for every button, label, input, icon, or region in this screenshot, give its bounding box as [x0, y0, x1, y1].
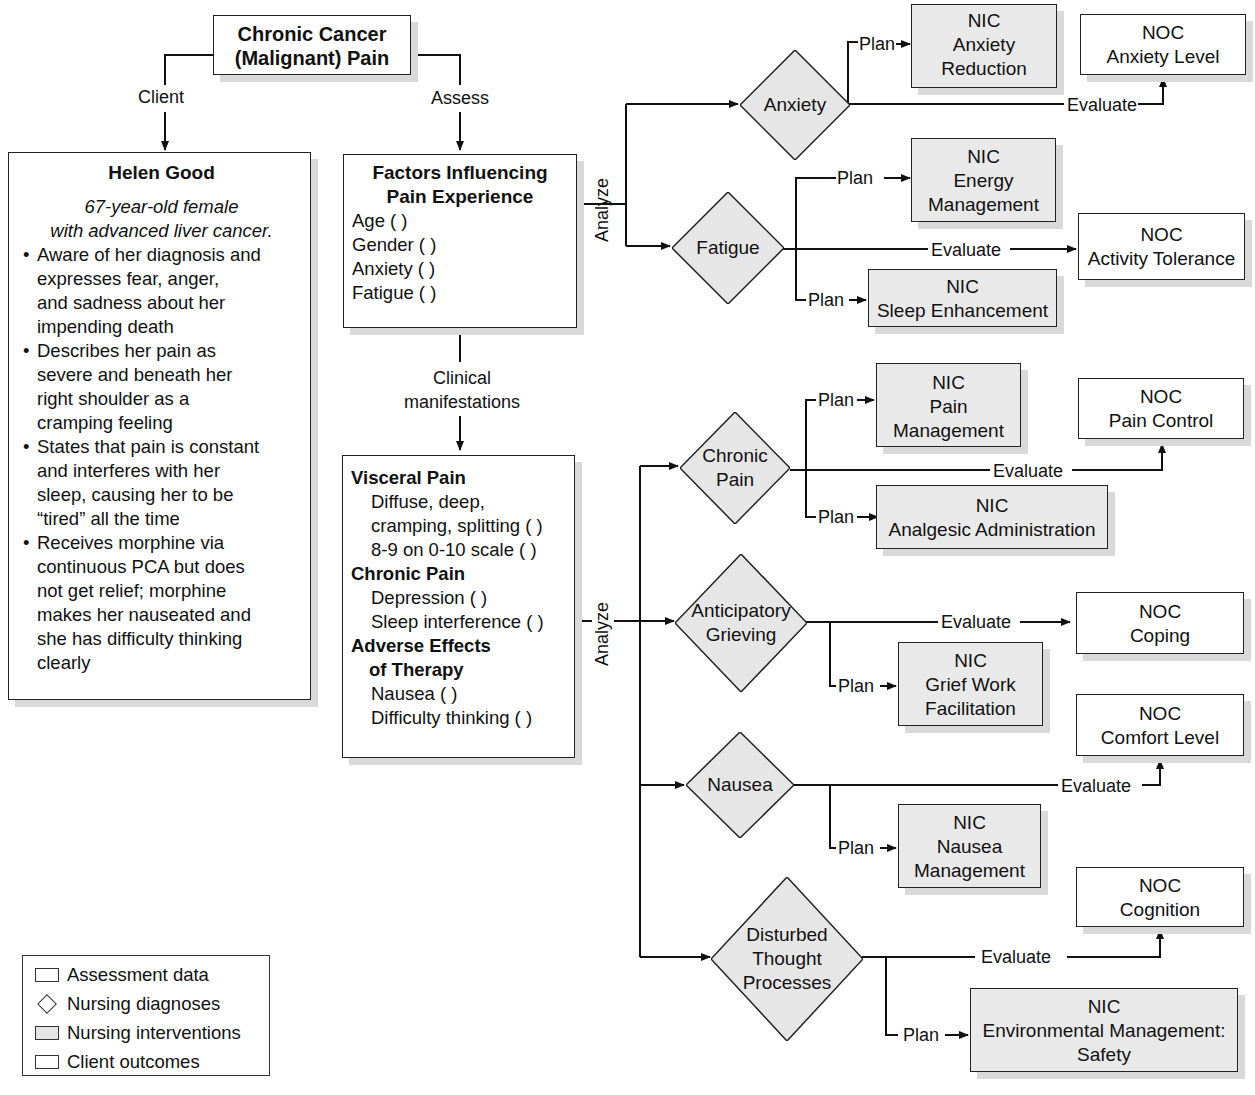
clinical-manifestations-label: Clinical manifestations: [395, 368, 529, 412]
legend: Assessment data Nursing diagnoses Nursin…: [22, 955, 270, 1076]
nic-anxiety-reduction: NICAnxietyReduction: [911, 4, 1057, 88]
noc-activity-tolerance: NOCActivity Tolerance: [1078, 213, 1245, 280]
nic-analgesic-administration: NICAnalgesic Administration: [876, 485, 1108, 549]
assess-edge-label: Assess: [430, 88, 490, 108]
manifestation-item: Depression ( ): [351, 586, 568, 610]
diagnosis-disturbed-thought: DisturbedThoughtProcesses: [711, 877, 863, 1041]
evaluate-label: Evaluate: [1066, 95, 1138, 115]
evaluate-label: Evaluate: [992, 461, 1064, 481]
legend-diagnoses: Nursing diagnoses: [35, 989, 269, 1018]
client-bullet: States that pain is constantand interfer…: [23, 435, 300, 531]
nic-pain-management: NICPainManagement: [876, 363, 1021, 447]
nic-nausea-management: NICNauseaManagement: [898, 804, 1041, 888]
evaluate-label: Evaluate: [930, 240, 1002, 260]
manifestation-item: Diffuse, deep,: [351, 490, 568, 514]
rectangle-white-icon: [35, 1055, 59, 1069]
legend-outcomes: Client outcomes: [35, 1047, 269, 1076]
diagnosis-fatigue: Fatigue: [672, 192, 784, 304]
adverse-heading-1: Adverse Effects: [351, 634, 568, 658]
evaluate-label: Evaluate: [1060, 776, 1132, 796]
noc-cognition: NOCCognition: [1076, 867, 1244, 927]
legend-assessment: Assessment data: [35, 960, 269, 989]
client-sub-1: 67-year-old female: [23, 195, 300, 219]
nic-energy-management: NICEnergyManagement: [911, 138, 1056, 222]
noc-pain-control: NOCPain Control: [1078, 378, 1244, 439]
evaluate-label: Evaluate: [980, 947, 1052, 967]
client-bullet: Describes her pain assevere and beneath …: [23, 339, 300, 435]
manifestation-item: Sleep interference ( ): [351, 610, 568, 634]
evaluate-label: Evaluate: [940, 612, 1012, 632]
diagnosis-nausea: Nausea: [686, 732, 794, 838]
client-sub-2: with advanced liver cancer.: [23, 219, 300, 243]
plan-label: Plan: [902, 1025, 940, 1045]
analyze-bottom-label: Analyze: [592, 602, 613, 666]
visceral-heading: Visceral Pain: [351, 466, 568, 490]
plan-label: Plan: [817, 390, 855, 410]
factors-box: Factors Influencing Pain Experience Age …: [343, 154, 577, 328]
factor-item: Gender ( ): [352, 233, 568, 257]
nic-grief-work-facilitation: NICGrief WorkFacilitation: [898, 642, 1043, 726]
manifestation-item: Nausea ( ): [351, 682, 568, 706]
factors-heading-2: Pain Experience: [352, 185, 568, 209]
diagnosis-chronic-pain: ChronicPain: [680, 412, 790, 524]
client-bullet: Aware of her diagnosis andexpresses fear…: [23, 243, 300, 339]
plan-label: Plan: [858, 34, 896, 54]
factors-heading-1: Factors Influencing: [352, 161, 568, 185]
nic-sleep-enhancement: NICSleep Enhancement: [868, 269, 1057, 327]
factor-item: Fatigue ( ): [352, 281, 568, 305]
client-bullet: Receives morphine viacontinuous PCA but …: [23, 531, 300, 675]
client-bullets: Aware of her diagnosis andexpresses fear…: [23, 243, 300, 675]
diamond-icon: [37, 994, 57, 1014]
title-line-2: (Malignant) Pain: [214, 46, 410, 70]
rectangle-gray-icon: [35, 1026, 59, 1040]
factor-item: Anxiety ( ): [352, 257, 568, 281]
adverse-heading-2: of Therapy: [351, 658, 568, 682]
factor-item: Age ( ): [352, 209, 568, 233]
diagnosis-anxiety: Anxiety: [740, 50, 850, 160]
plan-label: Plan: [807, 290, 845, 310]
manifestation-item: Difficulty thinking ( ): [351, 706, 568, 730]
client-edge-label: Client: [137, 87, 185, 107]
nic-environmental-management: NICEnvironmental Management:Safety: [970, 988, 1238, 1072]
manifestation-item: 8-9 on 0-10 scale ( ): [351, 538, 568, 562]
diagnosis-anticipatory-grieving: AnticipatoryGrieving: [675, 554, 807, 692]
manifestations-box: Visceral Pain Diffuse, deep, cramping, s…: [342, 455, 575, 758]
client-box: Helen Good 67-year-old female with advan…: [8, 152, 311, 700]
noc-comfort-level: NOCComfort Level: [1076, 694, 1244, 756]
plan-label: Plan: [837, 676, 875, 696]
title-box: Chronic Cancer (Malignant) Pain: [213, 15, 411, 75]
noc-coping: NOCCoping: [1076, 592, 1244, 654]
client-name: Helen Good: [23, 161, 300, 185]
manifestation-item: cramping, splitting ( ): [351, 514, 568, 538]
rectangle-white-icon: [35, 968, 59, 982]
title-line-1: Chronic Cancer: [214, 22, 410, 46]
analyze-top-label: Analyze: [592, 178, 613, 242]
legend-interventions: Nursing interventions: [35, 1018, 269, 1047]
chronic-heading: Chronic Pain: [351, 562, 568, 586]
plan-label: Plan: [837, 838, 875, 858]
plan-label: Plan: [817, 507, 855, 527]
plan-label: Plan: [836, 168, 874, 188]
noc-anxiety-level: NOCAnxiety Level: [1080, 14, 1246, 75]
